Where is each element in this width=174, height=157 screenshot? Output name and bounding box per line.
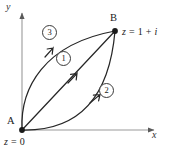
point-b-value-rest: = 1 + [126, 26, 154, 37]
path-1-straight-line [22, 31, 115, 130]
diagram-canvas [0, 0, 174, 157]
x-axis-label: x [152, 130, 156, 140]
point-b-label: B [110, 13, 117, 24]
path-marker-3: 3 [42, 25, 57, 40]
point-b-imaginary-unit: i [155, 26, 158, 37]
path-marker-1: 1 [56, 51, 71, 66]
point-a-dot [19, 127, 25, 133]
path-3-arrowhead [45, 48, 53, 57]
point-a-value-rest: = 0 [8, 136, 25, 147]
path-1-arrowhead [68, 74, 77, 84]
point-b-value-label: z = 1 + i [122, 27, 158, 37]
y-axis-label: y [6, 2, 10, 12]
path-marker-2: 2 [99, 83, 114, 98]
point-b-dot [112, 28, 118, 34]
figure-container: y x A z = 0 B z = 1 + i 3 1 2 [0, 0, 174, 157]
point-a-value-label: z = 0 [4, 137, 25, 147]
point-a-label: A [7, 116, 15, 127]
